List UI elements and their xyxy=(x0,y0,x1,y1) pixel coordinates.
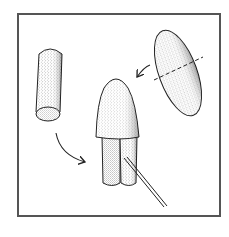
oval-piece xyxy=(145,24,211,122)
craft-illustration xyxy=(0,0,229,237)
cylinder-piece xyxy=(36,49,62,121)
assembled-figure xyxy=(96,79,139,186)
arrow-oval-to-figure xyxy=(137,65,150,77)
arrow-cylinder-to-figure xyxy=(56,133,85,162)
